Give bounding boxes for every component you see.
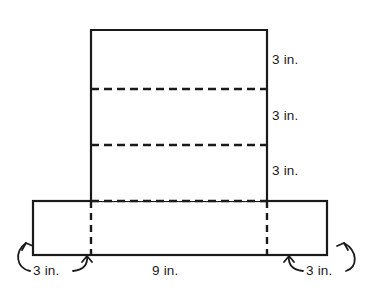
dimension-label-bottom-right: 3 in. [306,264,333,278]
base-rectangle [33,201,327,255]
dimension-label-right-middle: 3 in. [272,109,299,123]
net-diagram-svg [0,0,366,297]
dimension-label-right-top: 3 in. [272,53,299,67]
dimension-label-bottom-middle: 9 in. [152,264,179,278]
dimension-label-bottom-left: 3 in. [33,264,60,278]
vertical-rectangle [91,30,267,201]
geometry-figure: 3 in. 3 in. 3 in. 3 in. 9 in. 3 in. [0,0,366,297]
dimension-label-right-bottom: 3 in. [272,164,299,178]
